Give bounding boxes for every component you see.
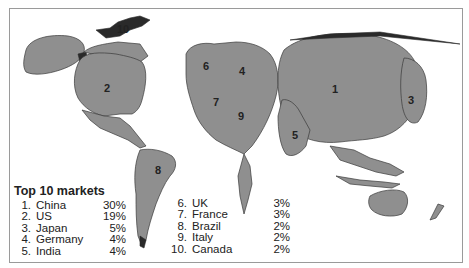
region-central-america xyxy=(82,110,146,148)
map-label-germany: 4 xyxy=(239,65,246,77)
map-label-china: 1 xyxy=(332,83,338,95)
map-label-brazil: 8 xyxy=(155,164,161,176)
map-label-italy: 9 xyxy=(238,110,244,122)
region-alaska xyxy=(24,36,85,75)
map-label-japan: 3 xyxy=(408,94,414,106)
region-europe xyxy=(186,42,278,154)
legend-country: Canada xyxy=(192,244,260,255)
legend-rank: 5. xyxy=(14,246,36,257)
legend-rank: 9. xyxy=(170,232,192,243)
region-southeast-asia xyxy=(330,146,404,176)
region-japan xyxy=(401,58,427,123)
legend-share: 2% xyxy=(260,244,290,255)
legend-country: Italy xyxy=(192,232,260,243)
legend-column-left: 1. China 30% 2. US 19% 3. Japan 5% 4. Ge… xyxy=(14,200,164,257)
legend-column-right: 6. UK 3% 7. France 3% 8. Brazil 2% 9. It… xyxy=(170,198,440,255)
legend-share: 4% xyxy=(96,234,126,245)
map-label-us: 2 xyxy=(104,82,110,94)
legend-share: 2% xyxy=(260,232,290,243)
legend-share: 4% xyxy=(96,246,126,257)
legend-title: Top 10 markets xyxy=(14,184,284,198)
legend-column-right-wrapper: 6. UK 3% 7. France 3% 8. Brazil 2% 9. It… xyxy=(170,198,440,255)
map-label-canada: 10 xyxy=(117,23,129,35)
map-label-uk: 6 xyxy=(203,60,209,72)
legend-rank: 10. xyxy=(170,244,192,255)
map-label-france: 7 xyxy=(213,96,219,108)
map-label-india: 5 xyxy=(292,129,298,141)
legend-country: Germany xyxy=(36,234,96,245)
legend-rank: 4. xyxy=(14,234,36,245)
legend-country: India xyxy=(36,246,96,257)
region-indonesia xyxy=(336,176,400,188)
